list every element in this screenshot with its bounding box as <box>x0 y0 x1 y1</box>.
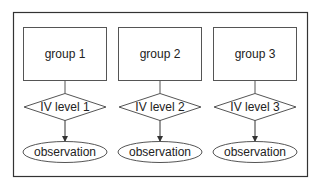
column-1: group 1 IV level 1 observation <box>23 28 107 163</box>
level-label: IV level 2 <box>135 100 185 114</box>
observation-label: observation <box>34 145 96 159</box>
observation-label: observation <box>129 145 191 159</box>
column-3: group 3 IV level 3 observation <box>213 28 297 163</box>
group-label: group 1 <box>45 47 86 61</box>
observation-label: observation <box>224 145 286 159</box>
group-label: group 3 <box>235 47 276 61</box>
group-label: group 2 <box>140 47 181 61</box>
column-2: group 2 IV level 2 observation <box>118 28 202 163</box>
level-label: IV level 3 <box>230 100 280 114</box>
level-label: IV level 1 <box>40 100 90 114</box>
diagram-canvas: group 1 IV level 1 observation group 2 I… <box>0 0 315 182</box>
